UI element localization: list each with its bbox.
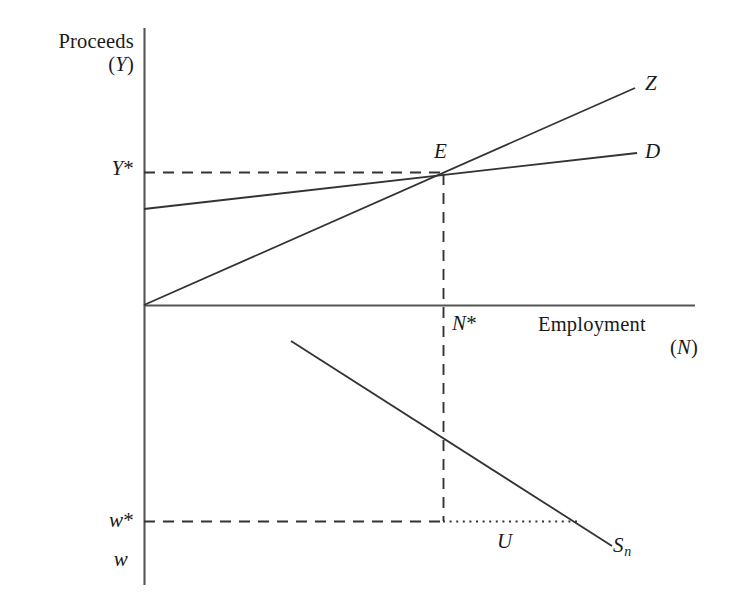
effective-demand-diagram: Proceeds (Y) Employment (N) Y* w* w N* E… [0,0,730,610]
y-star-variable: Y [111,156,123,180]
w-star-asterisk: * [123,508,134,532]
z-curve [144,88,635,305]
x-axis-variable: N [677,336,691,358]
sn-variable: S [613,533,624,557]
d-curve [144,153,637,209]
z-curve-label: Z [645,72,657,96]
x-axis-title-line1: Employment [538,313,646,335]
y-axis-variable: Y [115,53,127,75]
y-axis-title-line1: Proceeds [58,30,134,52]
sn-subscript: n [624,544,631,559]
unemployment-gap-label: U [497,530,512,554]
sn-curve-label: Sn [613,534,631,560]
d-curve-label: D [645,140,660,164]
n-star-label: N* [452,312,477,336]
w-axis-label: w [66,548,128,572]
x-axis-paren-close: ) [691,336,698,358]
n-star-asterisk: * [466,311,477,335]
n-star-variable: N [452,311,466,335]
y-star-asterisk: * [123,156,134,180]
equilibrium-point-label: E [434,140,447,164]
y-axis-paren-close: ) [127,53,134,75]
sn-curve [291,341,612,546]
x-axis-title: Employment (N) [538,313,698,359]
y-axis-title: Proceeds (Y) [34,30,134,76]
w-star-variable: w [109,508,123,532]
x-axis-title-line2: (N) [538,336,698,359]
w-star-label: w* [66,509,134,533]
y-star-label: Y* [66,157,134,181]
y-axis-title-line2: (Y) [34,53,134,76]
